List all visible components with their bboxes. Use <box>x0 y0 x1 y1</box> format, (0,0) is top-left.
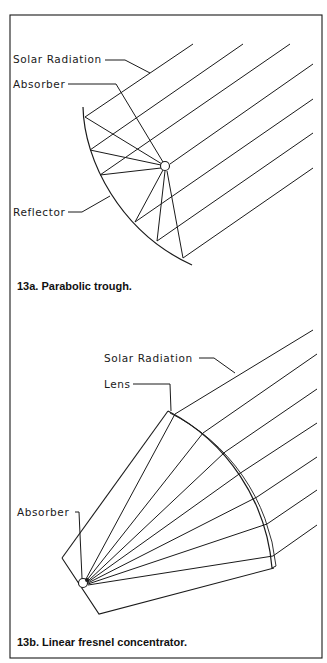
leader-reflector <box>68 196 110 212</box>
reflected-ray <box>135 170 163 222</box>
refracted-ray <box>88 452 225 581</box>
reflected-ray <box>167 171 183 258</box>
solar-ray <box>257 457 317 497</box>
reflector-curve <box>83 107 192 265</box>
fresnel-concentrator-diagram <box>62 330 317 614</box>
refracted-ray <box>88 556 273 585</box>
refracted-ray <box>88 472 242 582</box>
label-solar-radiation-a: Solar Radiation <box>13 53 102 65</box>
solar-ray <box>225 389 317 452</box>
solar-ray <box>157 133 313 241</box>
sector-bottom-edge <box>62 558 274 614</box>
label-reflector-a: Reflector <box>13 206 65 218</box>
leader-solar-radiation <box>199 358 235 373</box>
absorber-tube <box>161 162 170 171</box>
leader-absorber <box>68 84 163 162</box>
fresnel-lens-arc <box>168 411 272 568</box>
label-lens-b: Lens <box>104 378 131 390</box>
leader-lens <box>133 384 171 411</box>
solar-ray <box>100 44 290 175</box>
label-absorber-a: Absorber <box>13 78 65 90</box>
diagram-canvas: Solar Radiation Absorber Reflector 13a. … <box>0 0 327 663</box>
reflected-ray <box>90 150 161 165</box>
refracted-ray <box>88 524 267 584</box>
caption-13a: 13a. Parabolic trough. <box>17 280 132 292</box>
caption-13b: 13b. Linear fresnel concentrator. <box>17 636 187 648</box>
refracted-ray <box>87 433 203 580</box>
solar-ray <box>273 525 317 556</box>
label-solar-radiation-b: Solar Radiation <box>104 352 193 364</box>
solar-ray <box>203 354 317 433</box>
refracted-ray <box>86 414 175 579</box>
parabolic-trough-diagram <box>68 44 313 265</box>
label-absorber-b: Absorber <box>17 506 69 518</box>
refracted-ray <box>88 497 257 583</box>
solar-ray <box>183 168 313 258</box>
solar-ray <box>175 330 313 414</box>
solar-ray <box>267 490 317 524</box>
leader-solar-radiation <box>105 60 150 73</box>
leader-absorber <box>75 512 82 578</box>
